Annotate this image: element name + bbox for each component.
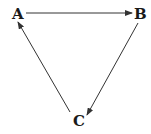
node-c: C	[73, 114, 85, 129]
edge-c-a	[18, 22, 70, 112]
node-b: B	[134, 7, 147, 22]
edge-b-c	[87, 23, 138, 115]
node-a: A	[12, 7, 24, 22]
